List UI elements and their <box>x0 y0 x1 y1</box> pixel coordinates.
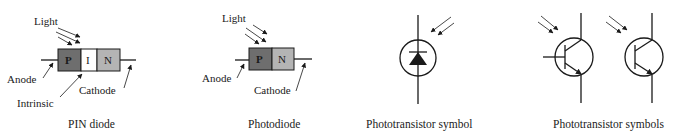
transistor-circle <box>625 38 663 76</box>
phototransistor-symbol-figure: Phototransistor symbol <box>366 15 472 131</box>
light-rays-icon <box>431 17 454 35</box>
emitter-arrow-icon <box>565 63 581 74</box>
cathode-label: Cathode <box>254 84 291 96</box>
cathode-pointer <box>296 63 305 91</box>
phototransistor-symbols-figure: Phototransistor symbols <box>538 13 664 131</box>
phototransistor-without-base <box>606 13 663 103</box>
p-label: P <box>65 54 72 66</box>
pin-light-label: Light <box>34 15 58 27</box>
anode-label: Anode <box>7 73 36 85</box>
light-rays-icon <box>245 25 267 44</box>
i-label: I <box>86 54 90 66</box>
collector-line <box>635 40 652 51</box>
photodiode-figure: Light P N Anode Cathode Photodiode <box>202 12 312 130</box>
n-label: N <box>104 54 112 66</box>
light-rays-icon <box>56 28 80 45</box>
diagram-canvas: Light P I N Anode Intrinsic Cathode PIN … <box>0 0 680 139</box>
photodiode-caption: Photodiode <box>248 118 300 130</box>
collector-line <box>565 40 581 51</box>
cathode-pointer <box>124 65 131 88</box>
light-rays-icon <box>606 16 627 33</box>
phototransistor-with-base <box>538 13 593 103</box>
cathode-label: Cathode <box>79 84 116 96</box>
anode-pointer <box>237 64 244 78</box>
diode-triangle-icon <box>409 52 427 65</box>
phototransistor-symbols-caption: Phototransistor symbols <box>553 118 664 131</box>
pin-diode-caption: PIN diode <box>68 118 115 130</box>
emitter-arrow-icon <box>635 63 652 74</box>
phototransistor-symbol-caption: Phototransistor symbol <box>366 118 472 131</box>
light-rays-icon <box>538 16 558 33</box>
photodiode-light-label: Light <box>222 12 246 24</box>
intrinsic-label: Intrinsic <box>17 97 54 109</box>
anode-pointer <box>43 63 53 78</box>
pin-diode-figure: Light P I N Anode Intrinsic Cathode PIN … <box>7 15 136 130</box>
n-label: N <box>278 53 286 65</box>
anode-label: Anode <box>202 72 231 84</box>
p-label: P <box>256 53 263 65</box>
